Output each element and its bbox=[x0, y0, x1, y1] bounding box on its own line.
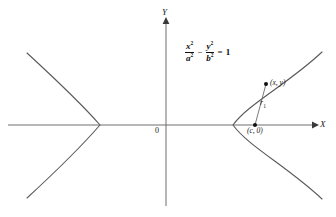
numerator-x-exponent: 2 bbox=[191, 40, 194, 46]
focus-point-label: (c, 0) bbox=[247, 127, 263, 135]
radius-subscript: 1 bbox=[263, 103, 266, 109]
fraction-y-over-b: y2 b2 bbox=[205, 41, 214, 63]
hyperbola-figure bbox=[0, 0, 336, 217]
numerator-y-exponent: 2 bbox=[211, 40, 214, 46]
fraction-numerator-y: y2 bbox=[206, 41, 215, 53]
axes-group bbox=[8, 17, 319, 206]
equation-right-side: 1 bbox=[226, 47, 231, 57]
fraction-numerator-x: x2 bbox=[185, 41, 194, 53]
equation-minus-operator: − bbox=[196, 47, 204, 57]
x-axis-arrowhead bbox=[312, 122, 319, 129]
y-axis-arrowhead bbox=[163, 17, 170, 24]
origin-label: 0 bbox=[155, 127, 159, 135]
fraction-x-over-a: x2 a2 bbox=[185, 41, 194, 63]
equation-equals-sign: = bbox=[216, 47, 224, 57]
x-axis-label: X bbox=[320, 120, 326, 129]
point-xy-marker bbox=[264, 82, 268, 86]
y-axis-label: Y bbox=[162, 8, 167, 17]
denominator-b-exponent: 2 bbox=[211, 52, 214, 58]
denominator-a-exponent: 2 bbox=[191, 52, 194, 58]
fraction-denominator-b: b2 bbox=[205, 53, 214, 64]
focal-radius-label: r1 bbox=[260, 99, 266, 109]
hyperbola-equation: x2 a2 − y2 b2 = 1 bbox=[185, 41, 230, 63]
point-xy-label: (x, y) bbox=[270, 79, 285, 87]
fraction-denominator-a: a2 bbox=[185, 53, 194, 64]
